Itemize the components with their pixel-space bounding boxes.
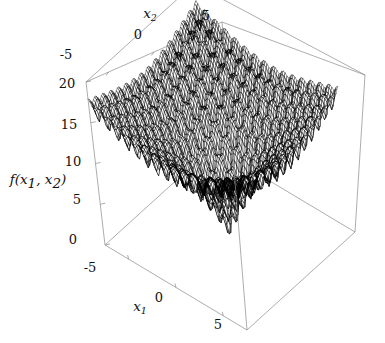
z-axis-label: f(x1, x2) [9, 171, 67, 191]
z-tick-label-5: 5 [73, 192, 81, 207]
x1-tick-labels: -5 0 5 [84, 260, 222, 332]
wireframe-surface [88, 1, 338, 233]
figure-canvas: -5 0 5 -5 0 5 0 5 10 15 20 x2 x1 f(x1, x… [0, 0, 385, 343]
x1-axis-label: x1 [133, 298, 147, 316]
box-edge-vertical-right [355, 75, 365, 232]
z-tick-label-20: 20 [59, 76, 76, 91]
tick-mark [100, 203, 105, 204]
z-tick-label-15: 15 [61, 117, 78, 132]
x2-tick-label-neg5: -5 [60, 47, 73, 62]
tick-mark [91, 122, 96, 123]
x1-tick-label-neg5: -5 [84, 260, 97, 275]
tick-mark [96, 163, 101, 164]
z-tick-label-0: 0 [69, 232, 77, 247]
x1-tick-label-5: 5 [214, 317, 222, 332]
x1-tick-label-0: 0 [155, 290, 163, 305]
z-tick-label-10: 10 [65, 154, 82, 169]
surface-plot-figure: -5 0 5 -5 0 5 0 5 10 15 20 x2 x1 f(x1, x… [0, 0, 385, 343]
x2-tick-label-0: 0 [134, 27, 142, 42]
x2-tick-label-5: 5 [202, 8, 210, 23]
z-tick-labels: 0 5 10 15 20 [59, 76, 82, 247]
box-edge-front-right [247, 232, 355, 330]
x2-axis-label: x2 [143, 5, 157, 23]
